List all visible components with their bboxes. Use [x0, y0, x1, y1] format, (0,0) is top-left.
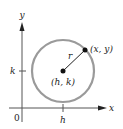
circle-point [83, 48, 88, 53]
radius-line [63, 50, 85, 71]
origin-label: 0 [14, 113, 20, 123]
x-axis-arrow-icon [98, 106, 107, 111]
radius-label: r [68, 51, 73, 61]
center-label: (h, k) [51, 77, 75, 87]
x-axis-label: x [109, 103, 114, 113]
point-label: (x, y) [90, 44, 113, 54]
x-tick-label: h [60, 115, 66, 125]
y-axis-arrow-icon [20, 22, 25, 31]
y-tick-label: k [10, 66, 15, 76]
center-point [61, 69, 66, 74]
y-axis-label: y [19, 10, 26, 20]
circle-diagram: y x 0 k h r (h, k) (x, y) [0, 0, 123, 129]
